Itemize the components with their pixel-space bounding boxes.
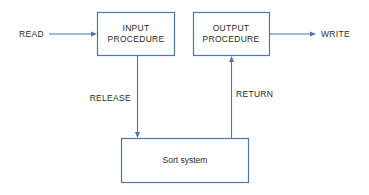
input-procedure-label-line2: PROCEDURE [107, 34, 164, 44]
write-label: WRITE [321, 29, 350, 39]
release-arrowhead [135, 132, 140, 138]
release-label: RELEASE [90, 93, 131, 103]
sort-flow-diagram: READ INPUT PROCEDURE RELEASE OUTPUT PROC… [0, 0, 369, 195]
return-label: RETURN [236, 89, 273, 99]
output-procedure-label-line2: PROCEDURE [202, 34, 259, 44]
sort-system-label: Sort system [163, 155, 208, 165]
read-arrowhead [91, 32, 97, 37]
input-procedure-label-line1: INPUT [123, 23, 150, 33]
return-arrowhead [229, 56, 234, 62]
output-procedure-label-line1: OUTPUT [213, 23, 250, 33]
write-arrowhead [310, 32, 316, 37]
read-label: READ [19, 29, 44, 39]
